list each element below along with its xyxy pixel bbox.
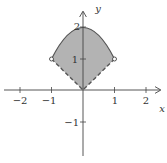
x-tick-label: −2 [13,95,28,106]
x-axis-label: x [159,103,165,114]
y-tick-label: 1 [72,54,78,65]
y-tick-label: 2 [74,21,80,32]
x-tick-label: 2 [143,95,149,106]
open-point-left [50,57,54,61]
region-plot: −2 −1 1 2 1 2 −1 x y [0,0,167,163]
x-tick-label: −1 [42,95,57,106]
x-tick-label: 1 [112,95,118,106]
y-tick-label: −1 [64,117,79,128]
open-point-right [113,57,117,61]
y-axis-label: y [94,3,101,14]
